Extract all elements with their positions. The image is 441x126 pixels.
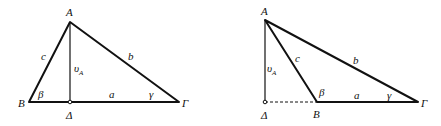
left-figure: A B Γ Δ c b a β γ υA <box>18 6 189 121</box>
vertex-delta-label-left: Δ <box>65 109 72 121</box>
angle-beta-label-right: β <box>318 86 325 98</box>
side-b-label-left: b <box>128 50 134 62</box>
vertex-a-label-right: A <box>260 5 268 17</box>
angle-beta-label-left: β <box>37 88 44 100</box>
side-b-label-right: b <box>353 54 359 66</box>
altitude-label-right: υA <box>267 62 277 77</box>
side-c-label-left: c <box>41 50 46 62</box>
vertex-delta-label-right: Δ <box>260 109 267 121</box>
right-figure: A B Γ Δ c b a β γ υA <box>260 5 428 121</box>
angle-gamma-label-right: γ <box>387 89 392 101</box>
vertex-b-label-right: B <box>313 108 320 120</box>
altitude-foot-left <box>68 100 72 104</box>
side-c-label-right: c <box>295 52 300 64</box>
side-a-label-left: a <box>109 88 115 100</box>
angle-gamma-label-left: γ <box>149 88 154 100</box>
triangle-altitude-diagram: A B Γ Δ c b a β γ υA A B Γ Δ c b a β γ υ… <box>0 0 441 126</box>
altitude-label-left: υA <box>74 62 84 77</box>
vertex-gamma-label-right: Γ <box>420 97 428 109</box>
altitude-foot-right <box>263 100 267 104</box>
vertex-a-label-left: A <box>65 6 73 18</box>
side-a-label-right: a <box>354 89 360 101</box>
vertex-b-label-left: B <box>18 97 25 109</box>
triangle-abg-left <box>29 22 179 102</box>
vertex-gamma-label-left: Γ <box>181 97 189 109</box>
triangle-abg-right <box>265 20 418 102</box>
